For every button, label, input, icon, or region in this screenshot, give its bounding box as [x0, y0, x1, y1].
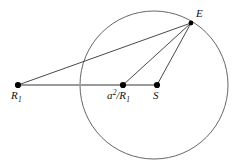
- point-a2r1-label-superscript: 2: [113, 88, 117, 97]
- point-s-label: S: [153, 90, 159, 101]
- diagram-canvas: [0, 0, 240, 168]
- point-r1-dot: [15, 82, 21, 88]
- point-a2r1-label-divider: /R: [116, 89, 126, 101]
- point-e-label: E: [196, 8, 203, 19]
- point-s-label-base: S: [153, 89, 159, 101]
- segment-e-to-s: [157, 23, 191, 85]
- point-s-dot: [154, 82, 160, 88]
- point-a-squared-over-r1-dot: [120, 82, 126, 88]
- point-r1-label-base: R: [11, 89, 18, 101]
- point-a2r1-label-base: a: [107, 89, 113, 101]
- point-a-squared-over-r1-label: a2/R1: [107, 90, 130, 101]
- segment-e-to-a2r1: [123, 23, 191, 85]
- point-e-label-base: E: [196, 7, 203, 19]
- segment-e-to-r1: [18, 23, 191, 85]
- point-r1-label: R1: [11, 90, 21, 101]
- point-a2r1-label-subscript: 1: [126, 95, 130, 104]
- geometry-figure: R1 a2/R1 S E: [0, 0, 240, 168]
- point-r1-label-subscript: 1: [18, 95, 22, 104]
- point-e-dot: [189, 21, 194, 26]
